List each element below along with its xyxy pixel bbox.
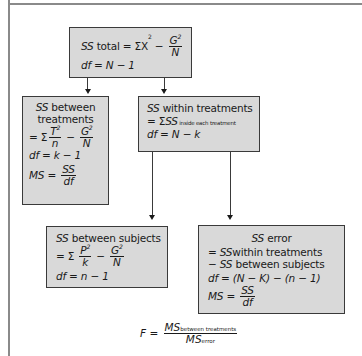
frac-denominator: df	[64, 176, 74, 187]
ms-error-formula: MS = SS df	[208, 285, 344, 308]
arrow-down-icon	[85, 89, 91, 94]
df-between: df = k − 1	[29, 149, 108, 161]
superscript: 2	[177, 33, 181, 40]
subscript: between treatments	[180, 326, 236, 332]
title-text: error	[264, 232, 292, 244]
g-squared-over-n: G2 N	[169, 35, 183, 58]
equals-prefix: =	[208, 246, 220, 258]
df-error: df = (N − K) − (n − 1)	[208, 272, 344, 284]
ss-label: SS	[56, 232, 69, 244]
ms-term: MS	[165, 321, 181, 333]
ss-total-formula: SS total = ΣX2 − G2 N	[81, 35, 191, 58]
ss-label: SS	[147, 102, 160, 114]
ss-between-formula: = Σ T2 n − G2 N	[29, 126, 108, 149]
ss-label: SS	[36, 101, 49, 113]
ss-over-df: SS df	[240, 285, 255, 308]
arrow-down-icon	[161, 89, 167, 94]
error-line-2: − SS between subjects	[208, 258, 344, 270]
f-ratio-formula: F = MSbetween treatments MSerror	[140, 322, 239, 345]
ss-term: SS	[165, 115, 178, 127]
error-line-1: = SSwithin treatments	[208, 246, 344, 258]
term-text: between subjects	[232, 258, 324, 270]
superscript: 2	[56, 124, 60, 131]
ss-subjects-formula: = Σ P2 k − G2 N	[56, 245, 167, 268]
ss-term: SS	[220, 246, 233, 258]
ss-between-subjects-box: SS between subjects = Σ P2 k − G2 N df =…	[46, 226, 168, 288]
term-text: within treatments	[232, 246, 322, 258]
superscript: 2	[89, 124, 93, 131]
title-text: between	[48, 101, 95, 113]
g-squared-over-n: G2 N	[80, 126, 94, 149]
frac-denominator: N	[113, 257, 121, 268]
ss-between-treatments-box: SS between treatments = Σ T2 n − G2 N df…	[22, 96, 109, 205]
minus-sign: −	[152, 40, 167, 52]
frac-denominator: k	[82, 257, 88, 268]
ss-label: SS	[81, 40, 94, 52]
frame-left-rule	[8, 0, 10, 356]
title-text: within treatments	[160, 102, 253, 114]
f-lhs: F =	[140, 327, 162, 339]
ss-total-box: SS total = ΣX2 − G2 N df = N − 1	[69, 27, 192, 78]
ms-between-formula: MS = SS df	[29, 164, 108, 187]
frac-denominator: df	[243, 297, 253, 308]
superscript: 2	[86, 243, 90, 250]
ss-term: SS	[220, 258, 233, 270]
connector-line	[230, 152, 231, 216]
subscript: error	[202, 338, 215, 344]
frac-denominator: MSerror	[186, 334, 215, 345]
sum-prefix: = Σ	[56, 250, 77, 262]
frac-denominator: N	[83, 138, 91, 149]
frac-denominator: n	[52, 138, 58, 149]
ms-term: MS	[186, 333, 202, 345]
ss-within-treatments-box: SS within treatments = ΣSS inside each t…	[138, 96, 260, 152]
ss-label: SS	[251, 232, 264, 244]
df-within: df = N − k	[147, 128, 259, 140]
ms-prefix: MS =	[29, 169, 59, 181]
frame-top-rule	[8, 3, 362, 5]
minus-prefix: −	[208, 258, 220, 270]
g-squared-over-n: G2 N	[110, 245, 124, 268]
arrow-down-icon	[149, 215, 155, 220]
title-line: SS between subjects	[56, 232, 167, 244]
ss-within-formula: = ΣSS inside each treatment	[147, 115, 259, 127]
p-squared-over-k: P2 k	[79, 245, 91, 268]
df-total: df = N − 1	[81, 59, 191, 71]
frac-denominator: N	[171, 47, 179, 58]
arrow-down-icon	[227, 215, 233, 220]
ss-over-df: SS df	[61, 164, 76, 187]
ss-error-box: SS error = SSwithin treatments − SS betw…	[198, 225, 345, 314]
df-subjects: df = n − 1	[56, 270, 167, 282]
title-line: SS error	[208, 232, 335, 244]
numerator-text: G	[81, 125, 89, 137]
title-text: between subjects	[69, 232, 161, 244]
title-line-1: SS between	[29, 101, 102, 113]
subscript: inside each treatment	[178, 120, 236, 126]
superscript: 2	[148, 33, 152, 40]
title-line: SS within treatments	[147, 102, 259, 114]
ms-ratio: MSbetween treatments MSerror	[164, 322, 238, 345]
ss-total-title: total = ΣX	[94, 40, 148, 52]
sum-prefix: = Σ	[147, 115, 165, 127]
t-squared-over-n: T2 n	[49, 126, 61, 149]
minus-sign: −	[93, 250, 108, 262]
ms-prefix: MS =	[208, 290, 238, 302]
connector-line	[152, 152, 153, 216]
numerator-text: G	[111, 244, 119, 256]
minus-sign: −	[63, 131, 78, 143]
superscript: 2	[119, 243, 123, 250]
sum-prefix: = Σ	[29, 131, 47, 143]
